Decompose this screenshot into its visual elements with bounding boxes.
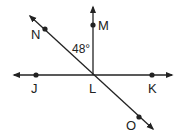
label-m: M <box>98 18 109 33</box>
label-n: N <box>31 27 40 42</box>
point-o <box>136 114 141 119</box>
point-n <box>42 26 47 31</box>
label-k: K <box>148 81 157 96</box>
line-no <box>30 16 153 129</box>
label-j: J <box>31 81 38 96</box>
point-m <box>90 22 95 27</box>
point-k <box>149 72 154 77</box>
point-j <box>33 72 38 77</box>
label-o: O <box>126 118 136 133</box>
label-l: L <box>89 81 96 96</box>
geometry-diagram: M N J L K O 48° <box>0 0 181 140</box>
angle-label: 48° <box>72 42 90 56</box>
